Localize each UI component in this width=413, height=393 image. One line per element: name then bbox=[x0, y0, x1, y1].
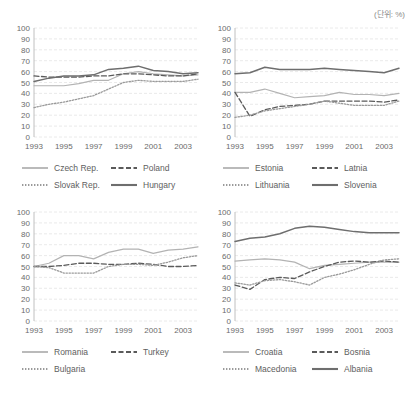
x-tick-label: 1993 bbox=[25, 326, 43, 335]
legend-item-label: Turkey bbox=[143, 347, 169, 357]
legend-item-label: Estonia bbox=[255, 163, 283, 173]
legend-swatch-icon bbox=[312, 180, 338, 190]
x-tick-label: 2001 bbox=[345, 326, 363, 335]
chart-svg-balkans: 0102030405060708090100199319951997199920… bbox=[205, 206, 405, 341]
x-tick-label: 1999 bbox=[316, 142, 334, 151]
x-tick-label: 2003 bbox=[375, 326, 393, 335]
y-tick-label: 90 bbox=[21, 35, 30, 44]
legend-swatch-icon bbox=[22, 364, 48, 374]
y-tick-label: 30 bbox=[222, 100, 231, 109]
legend-3: CroatiaBosniaMacedoniaAlbania bbox=[223, 343, 401, 377]
legend-item[interactable]: Romania bbox=[22, 343, 111, 360]
y-tick-label: 10 bbox=[222, 122, 231, 131]
legend-item-label: Slovenia bbox=[344, 180, 377, 190]
y-tick-label: 100 bbox=[17, 208, 31, 217]
y-tick-label: 100 bbox=[218, 208, 232, 217]
legend-item[interactable]: Croatia bbox=[223, 343, 312, 360]
y-tick-label: 20 bbox=[222, 111, 231, 120]
x-tick-label: 1997 bbox=[286, 142, 304, 151]
y-tick-label: 30 bbox=[21, 284, 30, 293]
series-line-romania bbox=[34, 247, 198, 267]
series-line-czech-rep bbox=[34, 72, 198, 86]
y-tick-label: 50 bbox=[222, 263, 231, 272]
x-tick-label: 2001 bbox=[345, 142, 363, 151]
y-tick-label: 90 bbox=[21, 219, 30, 228]
legend-swatch-icon bbox=[223, 347, 249, 357]
legend-item-label: Slovak Rep. bbox=[54, 180, 100, 190]
legend-item[interactable]: Poland bbox=[111, 159, 200, 176]
legend-swatch-icon bbox=[111, 347, 137, 357]
plot-area-2: 0102030405060708090100199319951997199920… bbox=[4, 206, 204, 341]
legend-item[interactable]: Slovenia bbox=[312, 176, 401, 193]
series-line-hungary bbox=[34, 66, 198, 81]
legend-item[interactable]: Czech Rep. bbox=[22, 159, 111, 176]
y-tick-label: 40 bbox=[222, 273, 231, 282]
y-tick-label: 100 bbox=[218, 24, 232, 33]
legend-item[interactable]: Estonia bbox=[223, 159, 312, 176]
x-tick-label: 1997 bbox=[286, 326, 304, 335]
y-tick-label: 40 bbox=[21, 89, 30, 98]
legend-item[interactable]: Turkey bbox=[111, 343, 200, 360]
y-tick-label: 60 bbox=[222, 252, 231, 261]
legend-item-label: Latnia bbox=[344, 163, 367, 173]
unit-note: (단위: %) bbox=[374, 8, 405, 19]
series-line-croatia bbox=[235, 259, 399, 269]
x-tick-label: 1993 bbox=[25, 142, 43, 151]
plot-area-0: 0102030405060708090100199319951997199920… bbox=[4, 22, 204, 157]
chart-panel-romania-turkey-bulgaria: 0102030405060708090100199319951997199920… bbox=[4, 206, 204, 388]
y-tick-label: 80 bbox=[222, 46, 231, 55]
x-tick-label: 1999 bbox=[115, 326, 133, 335]
legend-swatch-icon bbox=[111, 180, 137, 190]
legend-swatch-icon bbox=[22, 180, 48, 190]
figure-root: (단위: %) 01020304050607080901001993199519… bbox=[0, 0, 413, 393]
x-tick-label: 2003 bbox=[375, 142, 393, 151]
legend-item[interactable]: Macedonia bbox=[223, 360, 312, 377]
y-tick-label: 70 bbox=[21, 57, 30, 66]
legend-item[interactable]: Hungary bbox=[111, 176, 200, 193]
x-tick-label: 2001 bbox=[144, 326, 162, 335]
legend-item[interactable]: Lithuania bbox=[223, 176, 312, 193]
legend-item[interactable]: Bulgaria bbox=[22, 360, 111, 377]
legend-item[interactable]: Latnia bbox=[312, 159, 401, 176]
legend-item-label: Macedonia bbox=[255, 364, 297, 374]
legend-1: EstoniaLatniaLithuaniaSlovenia bbox=[223, 159, 401, 193]
legend-item[interactable]: Bosnia bbox=[312, 343, 401, 360]
x-tick-label: 1993 bbox=[226, 326, 244, 335]
plot-area-1: 0102030405060708090100199319951997199920… bbox=[205, 22, 405, 157]
y-tick-label: 40 bbox=[222, 89, 231, 98]
chart-panel-baltics-slovenia: 0102030405060708090100199319951997199920… bbox=[205, 22, 405, 204]
y-tick-label: 0 bbox=[227, 317, 232, 326]
legend-item[interactable]: Slovak Rep. bbox=[22, 176, 111, 193]
legend-item[interactable]: Albania bbox=[312, 360, 401, 377]
y-tick-label: 20 bbox=[21, 295, 30, 304]
legend-item-label: Bosnia bbox=[344, 347, 370, 357]
y-tick-label: 100 bbox=[17, 24, 31, 33]
y-tick-label: 0 bbox=[26, 317, 31, 326]
chart-svg-central-europe: 0102030405060708090100199319951997199920… bbox=[4, 22, 204, 157]
x-tick-label: 2001 bbox=[144, 142, 162, 151]
y-tick-label: 50 bbox=[222, 79, 231, 88]
series-line-macedonia bbox=[235, 259, 399, 285]
legend-swatch-icon bbox=[312, 364, 338, 374]
y-tick-label: 80 bbox=[222, 230, 231, 239]
chart-panel-central-europe: 0102030405060708090100199319951997199920… bbox=[4, 22, 204, 204]
y-tick-label: 70 bbox=[222, 241, 231, 250]
y-tick-label: 30 bbox=[222, 284, 231, 293]
series-line-bosnia bbox=[235, 261, 399, 289]
y-tick-label: 90 bbox=[222, 219, 231, 228]
x-tick-label: 2003 bbox=[174, 326, 192, 335]
chart-panel-balkans: 0102030405060708090100199319951997199920… bbox=[205, 206, 405, 388]
y-tick-label: 70 bbox=[222, 57, 231, 66]
legend-swatch-icon bbox=[22, 347, 48, 357]
chart-svg-romania-turkey-bulgaria: 0102030405060708090100199319951997199920… bbox=[4, 206, 204, 341]
legend-item-label: Lithuania bbox=[255, 180, 290, 190]
y-tick-label: 70 bbox=[21, 241, 30, 250]
y-tick-label: 0 bbox=[227, 133, 232, 142]
legend-2: RomaniaTurkeyBulgaria bbox=[22, 343, 200, 377]
legend-0: Czech Rep.PolandSlovak Rep.Hungary bbox=[22, 159, 200, 193]
y-tick-label: 60 bbox=[21, 252, 30, 261]
y-tick-label: 60 bbox=[21, 68, 30, 77]
x-tick-label: 1995 bbox=[55, 326, 73, 335]
legend-item-label: Poland bbox=[143, 163, 169, 173]
legend-swatch-icon bbox=[22, 163, 48, 173]
